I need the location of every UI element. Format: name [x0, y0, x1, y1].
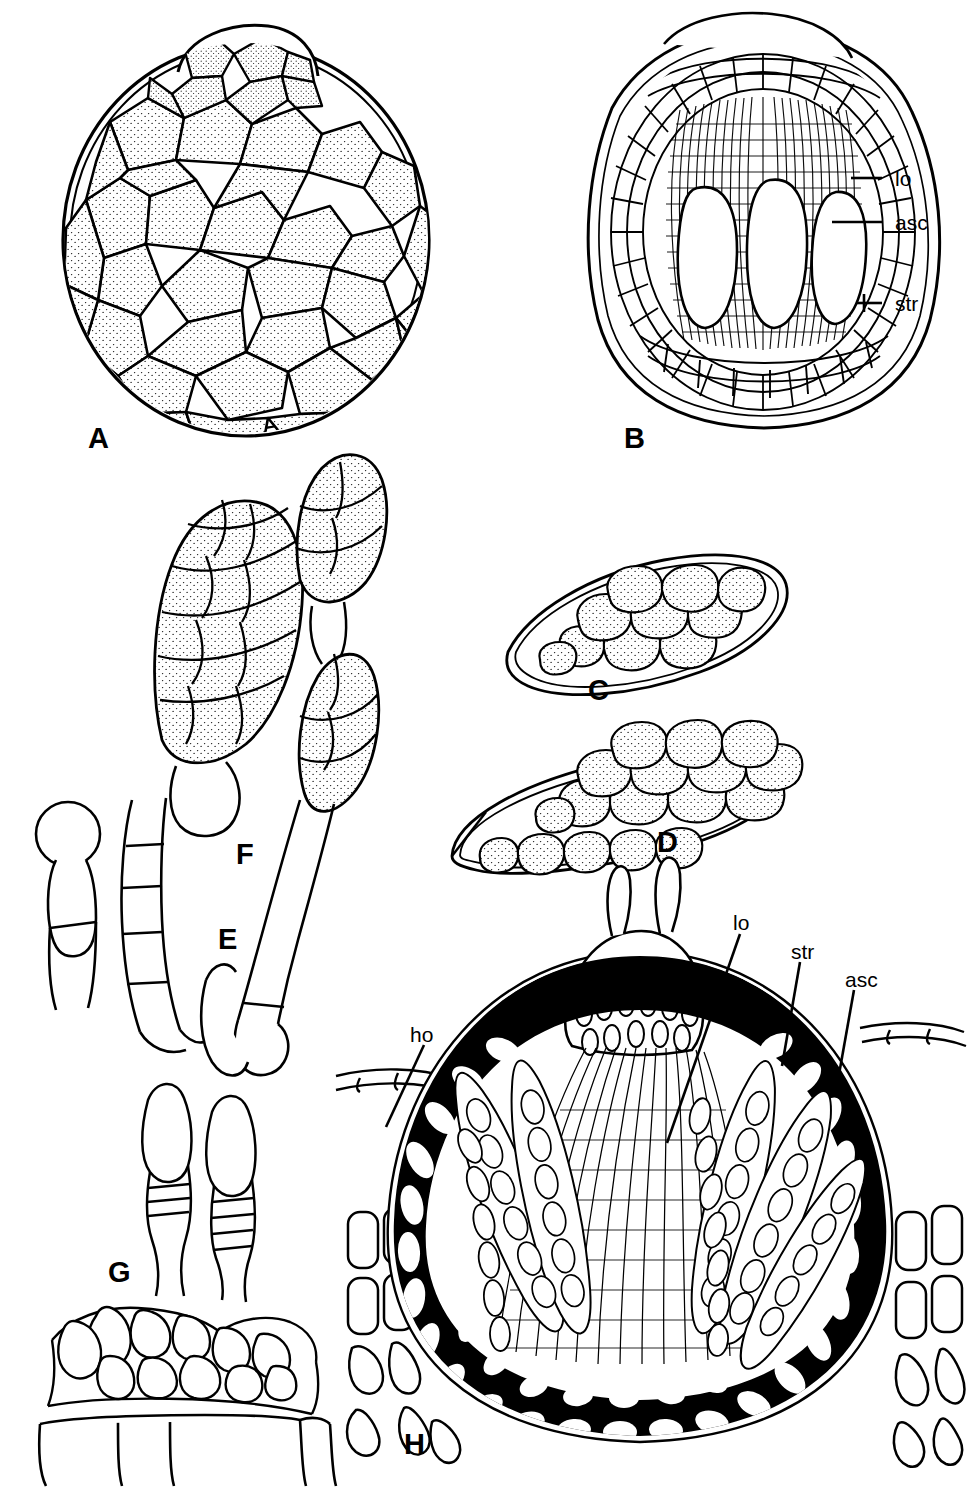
label-str-panel-b: str — [895, 293, 918, 314]
panel-d-artwork — [452, 720, 802, 874]
label-str-panel-h: str — [791, 941, 814, 962]
panel-letter-b: B — [624, 424, 645, 453]
label-asc-panel-b: asc — [895, 212, 928, 233]
label-lo-panel-h: lo — [733, 912, 749, 933]
panel-letter-a: A — [88, 424, 109, 453]
panel-letter-d: D — [657, 828, 678, 857]
panel-letter-g: G — [108, 1258, 131, 1287]
figure-plate: A B C D E F G H lo asc str ho lo str asc — [0, 0, 967, 1490]
panel-letter-f: F — [236, 840, 254, 869]
panel-letter-c: C — [588, 676, 609, 705]
panel-a-artwork — [52, 25, 448, 454]
panel-h-artwork — [336, 858, 966, 1467]
panel-letter-e: E — [218, 925, 237, 954]
panel-e-artwork — [36, 798, 204, 1052]
panel-letter-h: H — [404, 1430, 425, 1459]
panel-f-artwork — [155, 455, 387, 1076]
panel-g-artwork — [39, 1084, 336, 1486]
panel-c-artwork — [507, 555, 787, 695]
panel-b-artwork — [588, 13, 939, 428]
figure-artwork — [0, 0, 967, 1490]
label-ho-panel-h: ho — [410, 1024, 433, 1045]
label-asc-panel-h: asc — [845, 969, 878, 990]
label-lo-panel-b: lo — [895, 168, 911, 189]
